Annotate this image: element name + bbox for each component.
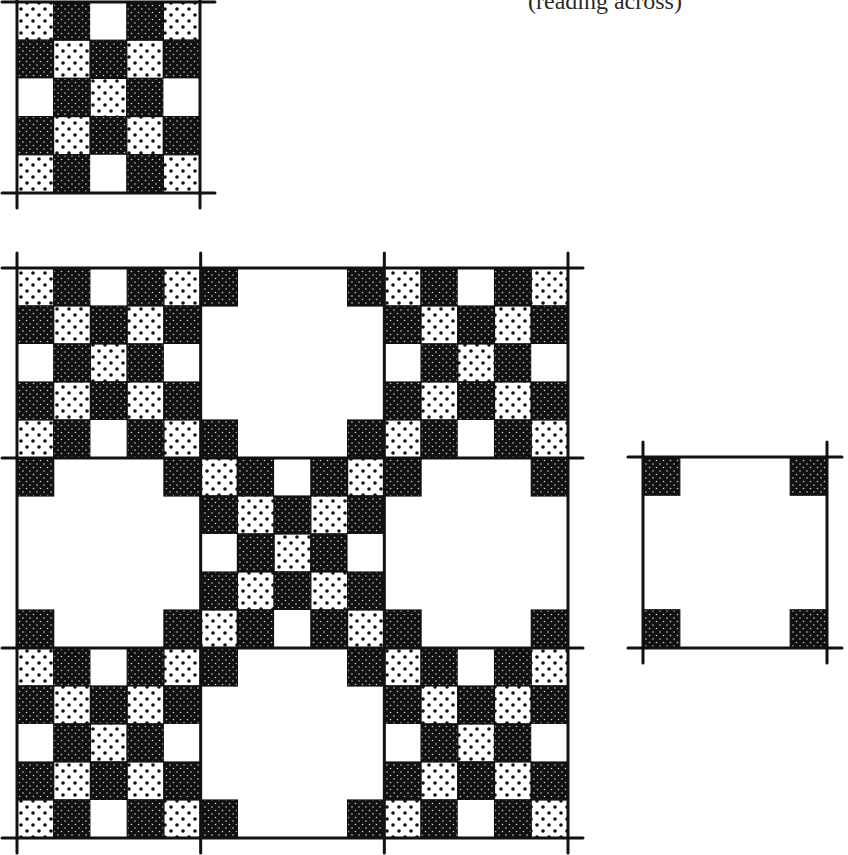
checker-cell — [384, 762, 421, 800]
checker-cell — [127, 420, 164, 458]
checker-cell — [54, 648, 91, 686]
checker-cell — [17, 420, 54, 458]
checker-cell — [237, 534, 274, 572]
corner-square — [790, 610, 827, 648]
checker-cell — [164, 382, 201, 420]
checker-cell — [421, 306, 458, 344]
checker-cell — [531, 268, 568, 306]
checker-cell — [90, 800, 127, 838]
corner-square — [348, 420, 385, 458]
checker-cell — [495, 382, 532, 420]
checker-cell — [164, 344, 201, 382]
checker-cell — [90, 762, 127, 800]
checker-cell — [90, 724, 127, 762]
checker-cell — [311, 610, 348, 648]
checker-cell — [384, 724, 421, 762]
checker-cell — [17, 155, 54, 193]
checker-cell — [201, 534, 238, 572]
checker-cell — [127, 800, 164, 838]
checker-cell — [17, 40, 54, 78]
checker-cell — [17, 648, 54, 686]
checker-cell — [163, 2, 200, 40]
checker-cell — [164, 762, 201, 800]
checker-cell — [458, 686, 495, 724]
checker-cell — [17, 78, 54, 116]
checker-cell — [421, 382, 458, 420]
corner-square — [384, 610, 421, 648]
checker-cell — [54, 686, 91, 724]
checker-cell — [274, 534, 311, 572]
checker-cell — [54, 800, 91, 838]
checker-cell — [127, 117, 164, 155]
checker-cell — [201, 496, 238, 534]
checker-cell — [201, 572, 238, 610]
corner-square — [17, 610, 54, 648]
checker-cell — [54, 2, 91, 40]
checker-cell — [164, 420, 201, 458]
checker-cell — [384, 420, 421, 458]
checker-cell — [90, 78, 127, 116]
checker-cell — [531, 420, 568, 458]
checker-cell — [54, 268, 91, 306]
checker-cell — [127, 648, 164, 686]
checker-cell — [531, 382, 568, 420]
checker-cell — [54, 344, 91, 382]
checker-cell — [458, 420, 495, 458]
checker-cell — [495, 724, 532, 762]
quilt-3x3 — [17, 268, 568, 838]
checker-cell — [495, 268, 532, 306]
checker-cell — [384, 268, 421, 306]
checker-cell — [458, 762, 495, 800]
checker-cell — [164, 724, 201, 762]
corner-square — [164, 458, 201, 496]
checker-cell — [90, 268, 127, 306]
checker-cell — [348, 572, 385, 610]
checker-cell — [311, 496, 348, 534]
checker-cell — [54, 382, 91, 420]
checker-cell — [421, 724, 458, 762]
checker-cell — [127, 344, 164, 382]
checker-cell — [531, 686, 568, 724]
checker-cell — [54, 40, 91, 78]
checker-cell — [495, 800, 532, 838]
checker-cell — [163, 78, 200, 116]
checker-cell — [163, 155, 200, 193]
checker-cell — [531, 800, 568, 838]
checker-cell — [17, 686, 54, 724]
checker-cell — [531, 648, 568, 686]
checker-cell — [90, 306, 127, 344]
checker-cell — [17, 800, 54, 838]
checker-cell — [17, 724, 54, 762]
corner-square — [531, 610, 568, 648]
checker-cell — [458, 382, 495, 420]
checker-cell — [90, 382, 127, 420]
checker-cell — [90, 648, 127, 686]
checker-cell — [348, 610, 385, 648]
checker-cell — [127, 762, 164, 800]
checker-cell — [17, 306, 54, 344]
checker-cell — [54, 117, 91, 155]
checker-cell — [17, 344, 54, 382]
checker-cell — [421, 686, 458, 724]
checker-cell — [17, 2, 54, 40]
checker-cell — [421, 762, 458, 800]
checker-cell — [458, 306, 495, 344]
corner-square — [164, 610, 201, 648]
checker-cell — [274, 458, 311, 496]
checker-cell — [495, 686, 532, 724]
checker-cell — [237, 496, 274, 534]
single-checker-block — [17, 2, 200, 193]
checker-cell — [164, 800, 201, 838]
checker-cell — [54, 78, 91, 116]
checker-cell — [311, 572, 348, 610]
corner-square — [201, 268, 238, 306]
checker-cell — [201, 458, 238, 496]
checker-cell — [311, 458, 348, 496]
checker-cell — [495, 762, 532, 800]
checker-cell — [90, 686, 127, 724]
checker-cell — [127, 382, 164, 420]
checker-cell — [164, 306, 201, 344]
corner-square — [201, 420, 238, 458]
checker-cell — [127, 78, 164, 116]
checker-cell — [54, 762, 91, 800]
